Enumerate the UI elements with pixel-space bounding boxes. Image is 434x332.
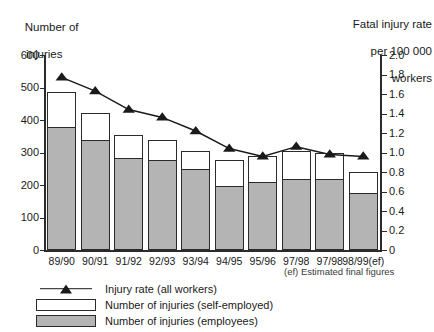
left-tick-label: 600 — [5, 50, 39, 61]
injury-statistics-chart: Number of injuries Fatal injury rate per… — [0, 0, 434, 332]
legend-label-employees: Number of injuries (employees) — [105, 315, 258, 327]
legend-item-self-employed: Number of injuries (self-employed) — [36, 297, 273, 312]
legend-label-self-employed: Number of injuries (self-employed) — [105, 299, 273, 311]
left-tick-label: 400 — [5, 115, 39, 126]
right-tick-mark — [382, 250, 387, 251]
legend-label-injury-rate: Injury rate (all workers) — [105, 283, 217, 295]
right-tick-mark — [382, 211, 387, 212]
right-tick-label: 0.8 — [389, 167, 423, 178]
footnote: (ef) Estimated final figures — [284, 266, 394, 277]
right-tick-label: 0.2 — [389, 225, 423, 236]
plot-area — [45, 55, 380, 250]
right-tick-mark — [382, 153, 387, 154]
left-tick-mark — [40, 250, 45, 251]
right-tick-mark — [382, 172, 387, 173]
injury-rate-marker — [56, 72, 68, 80]
right-axis-title-line1: Fatal injury rate — [353, 18, 432, 30]
right-tick-mark — [382, 133, 387, 134]
right-tick-label: 0.6 — [389, 186, 423, 197]
line-marker-swatch-icon — [36, 283, 96, 295]
injury-rate-marker — [223, 144, 235, 152]
bottom-axis-line — [44, 250, 382, 252]
legend-item-injury-rate: Injury rate (all workers) — [36, 281, 273, 296]
injury-rate-marker — [123, 105, 135, 113]
right-tick-mark — [382, 55, 387, 56]
injury-rate-line-series — [45, 55, 380, 250]
right-tick-label: 1.6 — [389, 89, 423, 100]
left-tick-label: 500 — [5, 82, 39, 93]
left-tick-label: 100 — [5, 212, 39, 223]
left-tick-label: 300 — [5, 147, 39, 158]
white-box-swatch-icon — [36, 299, 96, 311]
right-tick-mark — [382, 192, 387, 193]
right-tick-label: 0 — [389, 245, 423, 256]
gray-box-swatch-icon — [36, 315, 96, 327]
right-tick-mark — [382, 94, 387, 95]
left-axis-title-line1: Number of — [25, 21, 79, 33]
legend-item-employees: Number of injuries (employees) — [36, 313, 273, 328]
right-tick-label: 1.2 — [389, 128, 423, 139]
right-tick-label: 0.4 — [389, 206, 423, 217]
right-tick-label: 1.8 — [389, 69, 423, 80]
legend: Injury rate (all workers) Number of inju… — [36, 281, 273, 329]
right-tick-mark — [382, 231, 387, 232]
right-tick-mark — [382, 75, 387, 76]
injury-rate-marker — [290, 142, 302, 150]
injury-rate-line — [62, 77, 364, 156]
left-tick-label: 0 — [5, 245, 39, 256]
right-tick-label: 1.4 — [389, 108, 423, 119]
right-tick-label: 1.0 — [389, 147, 423, 158]
right-tick-mark — [382, 114, 387, 115]
left-tick-label: 200 — [5, 180, 39, 191]
right-tick-label: 2.0 — [389, 50, 423, 61]
